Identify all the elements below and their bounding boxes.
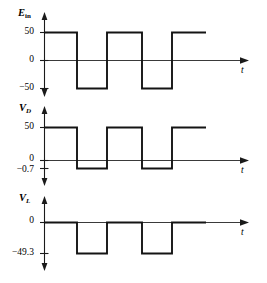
vl-trace — [45, 223, 207, 254]
panel-vd — [40, 106, 249, 186]
vl-axis-label-t: t — [241, 228, 244, 238]
vd-trace — [45, 128, 207, 169]
vd-vertical-axis-arrow-down — [42, 178, 48, 186]
ein-tick-label-neg50: −50 — [2, 83, 34, 93]
vd-tick-label-0: 0 — [6, 154, 34, 164]
ein-tick-label-50: 50 — [6, 27, 34, 37]
vl-time-axis-arrow — [240, 219, 249, 225]
ein-axis-label-t: t — [241, 66, 244, 76]
ein-tick-label-0: 0 — [6, 55, 34, 65]
panel-ein — [40, 12, 249, 97]
vd-tick-label-neg07: −0.7 — [0, 165, 34, 175]
vd-vertical-axis-arrow-up — [42, 106, 48, 114]
ein-vertical-axis-arrow-up — [42, 12, 48, 20]
waveform-figure: Ein 50 0 −50 t VD 50 0 −0.7 t VL 0 −49.3… — [0, 0, 267, 283]
signal-label-vl: VL — [19, 193, 30, 204]
ein-vertical-axis-arrow-down — [42, 89, 48, 97]
signal-label-vd: VD — [19, 103, 31, 114]
waveform-canvas — [0, 0, 267, 283]
vd-tick-label-50: 50 — [6, 122, 34, 132]
panel-vl — [40, 196, 249, 271]
vl-vertical-axis-arrow-up — [42, 196, 48, 204]
vd-time-axis-arrow — [240, 157, 249, 163]
signal-label-ein: Ein — [18, 8, 31, 19]
vd-axis-label-t: t — [241, 166, 244, 176]
vl-vertical-axis-arrow-down — [42, 263, 48, 271]
ein-time-axis-arrow — [240, 57, 249, 63]
vl-tick-label-neg493: −49.3 — [0, 248, 34, 258]
vl-tick-label-0: 0 — [6, 216, 34, 226]
